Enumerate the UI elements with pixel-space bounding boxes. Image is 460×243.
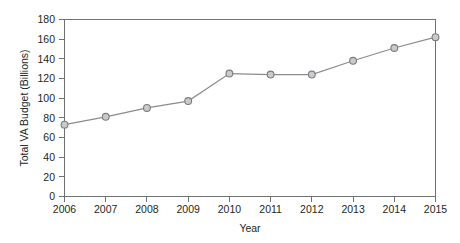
y-tick-label-20: 20 [43,171,55,183]
y-axis-ticks [59,20,65,197]
data-point-2006 [61,121,68,128]
y-tick-label-60: 60 [43,131,55,143]
plot-frame [65,20,436,197]
data-point-2011 [267,71,274,78]
data-point-2012 [308,71,315,78]
x-axis-title: Year [239,222,261,234]
x-tick-label-2015: 2015 [424,203,448,215]
x-tick-label-2011: 2011 [259,203,282,215]
x-tick-label-2006: 2006 [53,203,77,215]
x-tick-label-2009: 2009 [177,203,201,215]
x-tick-label-2013: 2013 [341,203,365,215]
y-tick-label-120: 120 [37,72,55,84]
y-tick-label-180: 180 [37,13,55,25]
y-axis-title: Total VA Budget (Billions) [18,49,30,166]
x-tick-label-2008: 2008 [135,203,159,215]
x-axis-tick-labels: 2006 2007 2008 2009 2010 2011 2012 2013 … [53,203,448,215]
y-tick-label-140: 140 [37,53,55,65]
data-point-2014 [391,45,398,52]
data-point-2015 [432,34,439,41]
data-point-2008 [144,105,151,112]
data-point-2010 [226,70,233,77]
data-point-2009 [185,98,192,105]
x-axis-ticks [65,196,436,201]
y-tick-label-80: 80 [43,112,55,124]
y-tick-label-40: 40 [43,151,55,163]
y-tick-label-100: 100 [37,92,55,104]
data-point-2013 [350,57,357,64]
y-axis-tick-labels: 180 160 140 120 100 80 60 40 20 0 [37,13,55,202]
x-tick-label-2014: 2014 [383,203,407,215]
x-tick-label-2010: 2010 [218,203,242,215]
chart-canvas: 180 160 140 120 100 80 60 40 20 0 2006 [0,0,460,243]
x-tick-label-2007: 2007 [94,203,118,215]
y-tick-label-160: 160 [37,33,55,45]
data-point-2007 [102,113,109,120]
y-tick-label-0: 0 [49,190,55,202]
x-tick-label-2012: 2012 [300,203,324,215]
line-chart-figure: 180 160 140 120 100 80 60 40 20 0 2006 [0,0,460,243]
series-line-total-va-budget [65,37,436,124]
